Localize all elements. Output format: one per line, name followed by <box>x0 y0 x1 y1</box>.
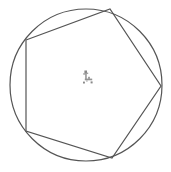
figure-svg <box>0 0 171 172</box>
geometry-figure-canvas: Circle with inscribed irregular pentagon <box>0 0 171 172</box>
